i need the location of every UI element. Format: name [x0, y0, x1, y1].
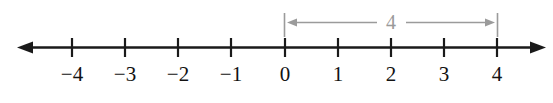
tick-label-2: 2	[361, 64, 421, 85]
span-right-arrowhead-icon	[485, 19, 495, 27]
tick-label-3: 3	[414, 64, 474, 85]
tick-label-minus4: −4	[42, 64, 102, 85]
tick-label-0: 0	[255, 64, 315, 85]
axis-right-arrowhead-icon	[530, 42, 546, 54]
axis-left-arrowhead-icon	[17, 42, 33, 54]
span-left-arrowhead-icon	[287, 19, 297, 27]
axis-line-group	[17, 42, 546, 54]
span-measurement-label: 4	[371, 12, 411, 32]
number-line-figure: −4 −3 −2 −1 0 1 2 3 4 4	[0, 0, 553, 103]
tick-label-minus1: −1	[201, 64, 261, 85]
tick-label-minus2: −2	[148, 64, 208, 85]
number-line-canvas	[0, 0, 553, 103]
tick-label-minus3: −3	[95, 64, 155, 85]
tick-label-4: 4	[467, 64, 527, 85]
tick-label-1: 1	[308, 64, 368, 85]
